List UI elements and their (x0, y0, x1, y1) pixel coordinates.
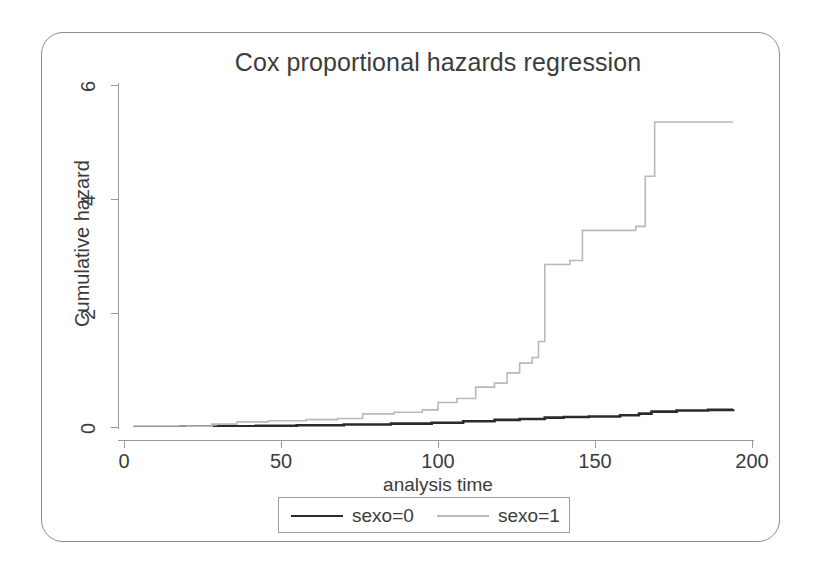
legend: sexo=0 sexo=1 (278, 497, 570, 533)
chart-title: Cox proportional hazards regression (124, 48, 752, 77)
x-tick-100 (438, 440, 439, 448)
series-sexo-1 (133, 122, 733, 427)
x-tick-label-0: 0 (89, 450, 159, 473)
x-tick-200 (752, 440, 753, 448)
legend-label-sexo-0: sexo=0 (352, 505, 414, 527)
x-tick-150 (595, 440, 596, 448)
y-axis-label: Cumulative hazard (71, 144, 94, 344)
plot-area (124, 85, 752, 427)
x-tick-label-50: 50 (246, 450, 316, 473)
x-tick-label-150: 150 (560, 450, 630, 473)
y-tick-label-0: 0 (77, 409, 100, 449)
x-tick-label-200: 200 (717, 450, 787, 473)
legend-swatch-sexo-1 (437, 515, 489, 517)
y-tick-4 (111, 199, 119, 200)
legend-swatch-sexo-0 (291, 515, 343, 518)
legend-label-sexo-1: sexo=1 (498, 505, 560, 527)
x-axis-label: analysis time (124, 474, 752, 496)
y-tick-0 (111, 427, 119, 428)
legend-item-sexo-1[interactable]: sexo=1 (437, 498, 560, 534)
x-tick-label-100: 100 (403, 450, 473, 473)
y-axis-line (118, 83, 119, 429)
legend-item-sexo-0[interactable]: sexo=0 (291, 498, 414, 534)
step-curves (124, 85, 752, 427)
x-tick-50 (281, 440, 282, 448)
x-axis-line (118, 440, 754, 441)
y-tick-label-6: 6 (77, 67, 100, 107)
y-tick-2 (111, 313, 119, 314)
x-tick-0 (124, 440, 125, 448)
y-tick-6 (111, 85, 119, 86)
